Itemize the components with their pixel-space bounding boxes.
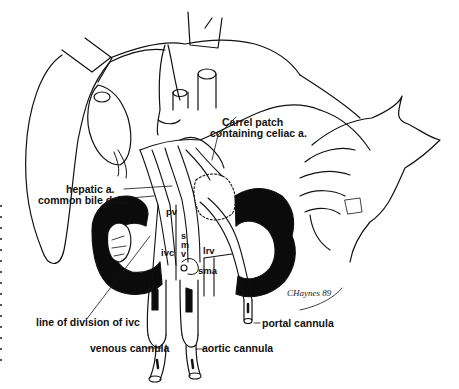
label-carrel-patch-line2: containing celiac a.: [210, 128, 307, 139]
distal-vessels: [147, 280, 252, 382]
label-aortic-cannula: aortic cannula: [202, 343, 273, 354]
label-ivc: ivc: [161, 247, 174, 258]
label-venous-cannula: venous cannula: [90, 343, 169, 354]
label-smv-v: v: [181, 250, 186, 259]
artist-signature: CHaynes 89: [287, 288, 331, 298]
retractor-left: [62, 38, 112, 82]
label-portal-cannula: portal cannula: [262, 318, 334, 329]
surgeon-hand: [300, 96, 440, 262]
label-line-of-division: line of division of ivc: [36, 317, 140, 328]
suprahepatic-ivc: [173, 69, 216, 110]
label-sma: sma: [198, 265, 217, 276]
label-lrv: lrv: [203, 245, 215, 256]
label-pv: pv: [166, 206, 177, 217]
left-kidney: [235, 189, 295, 297]
liver-edge-top: [110, 40, 300, 75]
label-common-bile-duct: common bile duct: [38, 195, 128, 206]
